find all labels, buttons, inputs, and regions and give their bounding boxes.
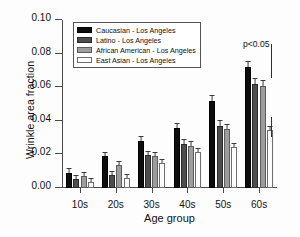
error-bar bbox=[183, 140, 184, 144]
error-bar bbox=[248, 62, 249, 67]
error-bar bbox=[83, 173, 84, 177]
bar-rect bbox=[217, 126, 223, 188]
error-bar-cap bbox=[246, 61, 251, 62]
bar-rect bbox=[159, 163, 165, 188]
bar-rect bbox=[116, 165, 122, 188]
bar-rect bbox=[145, 155, 151, 188]
error-bar bbox=[255, 78, 256, 83]
bar-rect bbox=[267, 130, 273, 188]
bar-rect bbox=[88, 182, 94, 188]
error-bar-cap bbox=[196, 148, 201, 149]
legend-label: East Asian - Los Angeles bbox=[96, 56, 176, 65]
bar-rect bbox=[138, 141, 144, 188]
error-bar-cap bbox=[74, 175, 79, 176]
bar-rect bbox=[181, 144, 187, 188]
error-bar bbox=[226, 125, 227, 129]
legend-swatch bbox=[77, 27, 92, 33]
error-bar-cap bbox=[81, 172, 86, 173]
error-bar-cap bbox=[88, 178, 93, 179]
error-bar bbox=[140, 137, 141, 141]
y-tick: 0.06 bbox=[55, 86, 62, 87]
y-axis-line bbox=[62, 20, 63, 188]
legend-item: Latino - Los Angeles bbox=[77, 35, 196, 45]
legend-swatch bbox=[77, 57, 92, 63]
x-tick-label: 40s bbox=[179, 199, 195, 210]
bar-rect bbox=[188, 146, 194, 188]
error-bar-cap bbox=[145, 151, 150, 152]
error-bar bbox=[69, 169, 70, 173]
error-bar bbox=[76, 176, 77, 179]
error-bar bbox=[191, 142, 192, 146]
error-bar-cap bbox=[232, 143, 237, 144]
significance-bar bbox=[271, 117, 272, 137]
error-bar-cap bbox=[260, 80, 265, 81]
error-bar-cap bbox=[181, 139, 186, 140]
bar-rect bbox=[195, 152, 201, 188]
x-tick bbox=[152, 188, 153, 193]
bar-rect bbox=[231, 147, 237, 188]
y-tick-label: 0.06 bbox=[32, 79, 51, 90]
bar-rect bbox=[245, 67, 251, 188]
legend-label: African American - Los Angeles bbox=[96, 46, 196, 55]
y-tick: 0.04 bbox=[55, 120, 62, 121]
legend-item: Caucasian - Los Angeles bbox=[77, 25, 196, 35]
legend-swatch bbox=[77, 37, 92, 43]
error-bar-cap bbox=[160, 159, 165, 160]
bar-rect bbox=[124, 178, 130, 188]
error-bar bbox=[90, 179, 91, 182]
bar-rect bbox=[252, 84, 258, 188]
error-bar-cap bbox=[117, 161, 122, 162]
y-tick: 0.00 bbox=[55, 187, 62, 188]
bar-group bbox=[209, 20, 237, 188]
x-tick bbox=[116, 188, 117, 193]
y-tick-label: 0.08 bbox=[32, 46, 51, 57]
error-bar-cap bbox=[102, 152, 107, 153]
bar-rect bbox=[81, 176, 87, 188]
error-bar bbox=[234, 144, 235, 147]
error-bar bbox=[148, 152, 149, 156]
error-bar bbox=[176, 124, 177, 128]
error-bar bbox=[219, 121, 220, 126]
x-tick-label: 50s bbox=[215, 199, 231, 210]
error-bar bbox=[119, 162, 120, 166]
error-bar-cap bbox=[174, 123, 179, 124]
x-tick-label: 60s bbox=[251, 199, 267, 210]
legend-item: East Asian - Los Angeles bbox=[77, 55, 196, 65]
bar-rect bbox=[102, 156, 108, 188]
y-tick-label: 0.02 bbox=[32, 146, 51, 157]
y-tick: 0.08 bbox=[55, 53, 62, 54]
error-bar-cap bbox=[124, 174, 129, 175]
significance-bar bbox=[271, 44, 272, 78]
legend-swatch bbox=[77, 47, 92, 53]
x-tick bbox=[80, 188, 81, 193]
legend-label: Latino - Los Angeles bbox=[96, 36, 161, 45]
x-tick-label: 20s bbox=[108, 199, 124, 210]
error-bar-cap bbox=[67, 168, 72, 169]
bar-rect bbox=[224, 129, 230, 188]
bar-rect bbox=[152, 156, 158, 188]
x-tick bbox=[187, 188, 188, 193]
error-bar-cap bbox=[153, 152, 158, 153]
error-bar-cap bbox=[189, 141, 194, 142]
y-tick-label: 0.00 bbox=[32, 180, 51, 191]
legend-label: Caucasian - Los Angeles bbox=[96, 26, 176, 35]
error-bar-cap bbox=[253, 78, 258, 79]
error-bar bbox=[212, 96, 213, 101]
error-bar bbox=[262, 81, 263, 86]
y-tick: 0.10 bbox=[55, 19, 62, 20]
bar-rect bbox=[109, 175, 115, 188]
x-tick bbox=[223, 188, 224, 193]
x-tick-label: 10s bbox=[72, 199, 88, 210]
chart-figure: Wrinkle area fraction 0.000.020.040.060.… bbox=[0, 0, 300, 237]
error-bar bbox=[112, 172, 113, 175]
error-bar bbox=[198, 149, 199, 152]
legend-item: African American - Los Angeles bbox=[77, 45, 196, 55]
y-tick: 0.02 bbox=[55, 153, 62, 154]
error-bar-cap bbox=[217, 120, 222, 121]
error-bar bbox=[126, 175, 127, 178]
error-bar-cap bbox=[110, 171, 115, 172]
bar-rect bbox=[73, 179, 79, 188]
x-axis-title: Age group bbox=[62, 212, 277, 224]
y-tick-label: 0.10 bbox=[32, 12, 51, 23]
error-bar-cap bbox=[138, 136, 143, 137]
